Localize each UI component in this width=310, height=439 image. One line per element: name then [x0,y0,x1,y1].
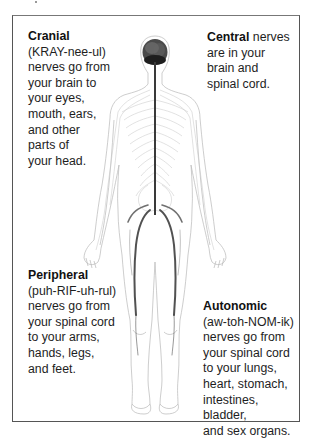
cranial-line: parts of [28,138,69,152]
peripheral-line: and feet. [28,362,76,376]
autonomic-line: heart, stomach, [203,377,288,391]
central-first-line: nerves [249,30,289,44]
cranial-line: your head. [28,154,86,168]
leg-nerves [128,205,182,355]
autonomic-line: nerves go from [203,330,285,344]
autonomic-line: and sex organs. [203,424,291,438]
peripheral-line: hands, legs, [28,346,94,360]
term-peripheral: Peripheral [28,268,88,282]
peripheral-line: nerves go from [28,299,110,313]
peripheral-line: to your arms, [28,330,100,344]
central-line: are in your [207,46,265,60]
autonomic-line: intestines, bladder, [203,393,258,423]
term-central: Central [207,30,249,44]
cranial-line: nerves go from [28,60,110,74]
autonomic-line: your spinal cord [203,346,290,360]
central-nervous-system [143,39,168,215]
pronunciation-cranial: (KRAY-nee-ul) [28,45,106,59]
label-peripheral: Peripheral (puh-RIF-uh-rul) nerves go fr… [28,268,128,377]
central-line: spinal cord. [207,77,270,91]
central-line: brain and [207,61,258,75]
label-cranial: Cranial (KRAY-nee-ul) nerves go from you… [28,29,118,169]
cranial-line: and other [28,123,80,137]
cranial-line: mouth, ears, [28,107,96,121]
cranial-line: your brain to [28,76,96,90]
peripheral-line: your spinal cord [28,315,115,329]
cranial-line: your eyes, [28,91,85,105]
pronunciation-autonomic: (aw-toh-NOM-ik) [203,315,294,329]
label-autonomic: Autonomic (aw-toh-NOM-ik) nerves go from… [203,299,303,439]
label-central: Central nerves are in your brain and spi… [207,30,299,92]
autonomic-line: to your lungs, [203,361,277,375]
pronunciation-peripheral: (puh-RIF-uh-rul) [28,284,116,298]
term-cranial: Cranial [28,29,70,43]
term-autonomic: Autonomic [203,299,267,313]
